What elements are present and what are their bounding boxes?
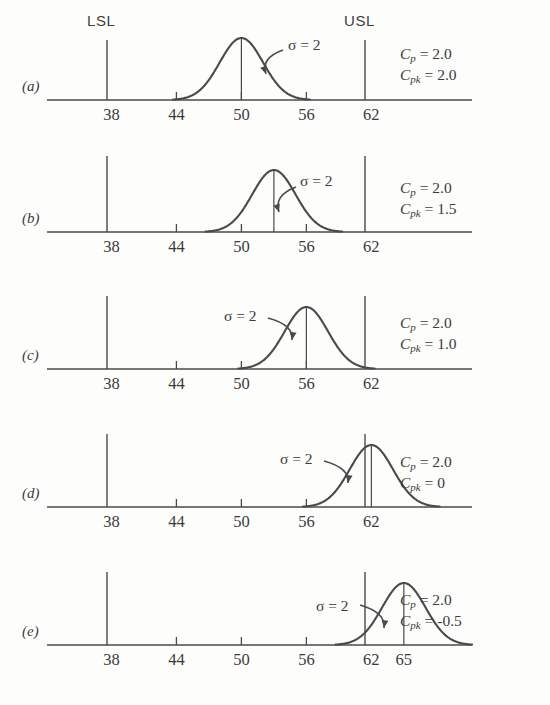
- cpk-a-equals: =: [421, 66, 438, 83]
- tick-label-38: 38: [91, 374, 131, 394]
- sigma-label-b: σ = 2: [300, 172, 333, 190]
- tick-label-44: 44: [156, 374, 196, 394]
- cpk-d-symbol: C: [400, 474, 410, 491]
- sigma-arrowhead-a: [260, 66, 267, 75]
- cp-a-symbol: C: [400, 45, 410, 62]
- lsl-header-label: LSL: [87, 12, 116, 29]
- cp-e: Cp = 2.0: [400, 590, 462, 611]
- tick-label-44: 44: [156, 237, 196, 257]
- cpk-e-value: -0.5: [437, 612, 462, 629]
- cp-d-value: 2.0: [432, 453, 451, 470]
- capability-values-a: Cp = 2.0Cpk = 2.0: [400, 44, 457, 86]
- cpk-e-subscript: pk: [410, 619, 420, 631]
- tick-label-62: 62: [351, 374, 391, 394]
- panel-letter-e: (e): [22, 623, 39, 640]
- cpk-a-symbol: C: [400, 66, 410, 83]
- capability-values-e: Cp = 2.0Cpk = -0.5: [400, 590, 462, 632]
- tick-label-44: 44: [156, 105, 196, 125]
- panel-letter-a: (a): [22, 78, 40, 95]
- capability-panel-b: (b)3844505662σ = 2Cp = 2.0Cpk = 1.5: [0, 132, 550, 269]
- cpk-d-subscript: pk: [410, 481, 420, 493]
- tick-label-56: 56: [286, 374, 326, 394]
- cpk-b-value: 1.5: [437, 200, 456, 217]
- cp-c-symbol: C: [400, 314, 410, 331]
- cp-d-symbol: C: [400, 453, 410, 470]
- sigma-label-e: σ = 2: [316, 597, 349, 615]
- tick-label-50: 50: [221, 650, 261, 670]
- tick-label-50: 50: [221, 512, 261, 532]
- sigma-arrowhead-e: [382, 620, 389, 628]
- cpk-e: Cpk = -0.5: [400, 611, 462, 632]
- panel-letter-b: (b): [22, 210, 40, 227]
- cp-a-equals: =: [416, 45, 433, 62]
- tick-label-38: 38: [91, 105, 131, 125]
- cpk-c-equals: =: [421, 335, 438, 352]
- tick-label-62: 62: [351, 512, 391, 532]
- cp-a-value: 2.0: [432, 45, 451, 62]
- usl-header-label: USL: [344, 12, 375, 29]
- process-capability-figure: (a)LSLUSL3844505662σ = 2Cp = 2.0Cpk = 2.…: [0, 0, 550, 705]
- sigma-label-a: σ = 2: [288, 36, 321, 54]
- cp-c-equals: =: [416, 314, 433, 331]
- cpk-a-subscript: pk: [410, 73, 420, 85]
- panel-letter-d: (d): [22, 485, 40, 502]
- cpk-d-value: 0: [437, 474, 445, 491]
- panel-letter-c: (c): [22, 347, 39, 364]
- tick-label-62: 62: [351, 237, 391, 257]
- cp-b-symbol: C: [400, 179, 410, 196]
- cp-c: Cp = 2.0: [400, 313, 457, 334]
- tick-label-38: 38: [91, 237, 131, 257]
- tick-label-56: 56: [286, 650, 326, 670]
- sigma-label-d: σ = 2: [280, 450, 313, 468]
- cp-e-value: 2.0: [432, 591, 451, 608]
- cp-a: Cp = 2.0: [400, 44, 457, 65]
- cpk-e-equals: =: [421, 612, 438, 629]
- cpk-b-equals: =: [421, 200, 438, 217]
- cpk-a: Cpk = 2.0: [400, 65, 457, 86]
- tick-label-44: 44: [156, 512, 196, 532]
- cp-c-value: 2.0: [432, 314, 451, 331]
- tick-label-38: 38: [91, 650, 131, 670]
- tick-label-56: 56: [286, 105, 326, 125]
- tick-label-56: 56: [286, 512, 326, 532]
- cpk-b-symbol: C: [400, 200, 410, 217]
- cpk-c: Cpk = 1.0: [400, 334, 457, 355]
- cpk-e-symbol: C: [400, 612, 410, 629]
- cpk-b-subscript: pk: [410, 207, 420, 219]
- tick-label-50: 50: [221, 374, 261, 394]
- tick-label-extra-65: 65: [384, 650, 424, 670]
- sigma-label-c: σ = 2: [224, 307, 257, 325]
- tick-label-38: 38: [91, 512, 131, 532]
- cpk-c-value: 1.0: [437, 335, 456, 352]
- cp-d-equals: =: [416, 453, 433, 470]
- cp-e-symbol: C: [400, 591, 410, 608]
- sigma-arrow-line-c: [268, 318, 292, 340]
- tick-label-50: 50: [221, 105, 261, 125]
- cpk-b: Cpk = 1.5: [400, 199, 457, 220]
- tick-label-56: 56: [286, 237, 326, 257]
- cp-b-value: 2.0: [432, 179, 451, 196]
- tick-label-44: 44: [156, 650, 196, 670]
- capability-panel-a: (a)LSLUSL3844505662σ = 2Cp = 2.0Cpk = 2.…: [0, 0, 550, 132]
- cp-d: Cp = 2.0: [400, 452, 452, 473]
- capability-panel-d: (d)3844505662σ = 2Cp = 2.0Cpk = 0: [0, 407, 550, 545]
- sigma-arrowhead-c: [290, 332, 297, 340]
- capability-panel-e: (e)384450566265σ = 2Cp = 2.0Cpk = -0.5: [0, 545, 550, 705]
- cp-e-equals: =: [416, 591, 433, 608]
- tick-label-62: 62: [351, 105, 391, 125]
- cp-b: Cp = 2.0: [400, 178, 457, 199]
- cpk-a-value: 2.0: [437, 66, 456, 83]
- cpk-d-equals: =: [421, 474, 438, 491]
- capability-values-d: Cp = 2.0Cpk = 0: [400, 452, 452, 494]
- capability-values-b: Cp = 2.0Cpk = 1.5: [400, 178, 457, 220]
- cpk-d: Cpk = 0: [400, 473, 452, 494]
- capability-panel-c: (c)3844505662σ = 2Cp = 2.0Cpk = 1.0: [0, 269, 550, 407]
- cpk-c-symbol: C: [400, 335, 410, 352]
- sigma-arrowhead-d: [346, 475, 353, 483]
- tick-label-50: 50: [221, 237, 261, 257]
- capability-values-c: Cp = 2.0Cpk = 1.0: [400, 313, 457, 355]
- cpk-c-subscript: pk: [410, 342, 420, 354]
- cp-b-equals: =: [416, 179, 433, 196]
